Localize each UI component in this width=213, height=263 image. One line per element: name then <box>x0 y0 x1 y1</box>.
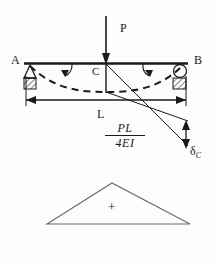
beam-deflection-figure: P A B C L PL 4EI δC + <box>0 0 213 263</box>
slope-angle-right <box>143 64 153 77</box>
deflection-subscript: C <box>196 151 201 160</box>
deflection-label: δC <box>190 145 201 160</box>
span-dimension-label: L <box>97 108 104 120</box>
point-load-arrow <box>102 16 110 65</box>
point-load-label: P <box>120 22 127 34</box>
formula-denominator: 4EI <box>104 136 146 149</box>
midspan-label-c: C <box>92 66 99 77</box>
moment-formula: PL 4EI <box>104 122 146 149</box>
moment-sign-label: + <box>108 200 115 213</box>
slope-angle-left <box>61 64 72 77</box>
formula-numerator: PL <box>104 122 146 135</box>
support-label-b: B <box>194 54 202 66</box>
support-label-a: A <box>11 54 20 66</box>
deflection-curve <box>30 66 180 92</box>
bending-moment-triangle <box>47 183 190 224</box>
deflection-dimension-arrow <box>182 120 190 149</box>
